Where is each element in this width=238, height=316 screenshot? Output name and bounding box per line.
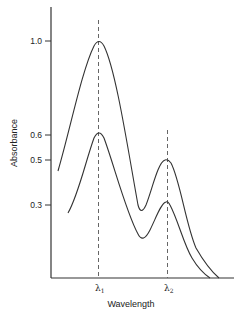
ytick-label-0-3: 0.3 [30, 200, 42, 210]
ytick-label-0-6: 0.6 [30, 130, 42, 140]
ytick-label-0-5: 0.5 [30, 155, 42, 165]
absorbance-chart: 1.0 0.6 0.5 0.3 Absorbance λ1 λ2 Wavelen… [0, 0, 238, 316]
y-axis-title: Absorbance [9, 119, 19, 167]
upper-absorbance-curve [58, 42, 219, 279]
x-axis-title: Wavelength [107, 299, 154, 309]
lower-absorbance-curve [68, 133, 210, 278]
xtick-label-lambda1: λ1 [95, 283, 105, 294]
xtick-label-lambda2: λ2 [164, 283, 174, 294]
ytick-label-1-0: 1.0 [30, 36, 42, 46]
